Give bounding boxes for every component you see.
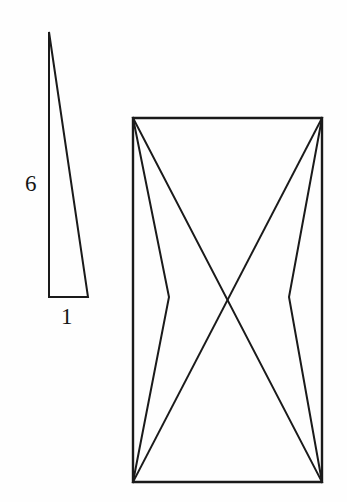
diagram-background: [0, 0, 347, 502]
triangle-height-label: 6: [25, 172, 37, 195]
geometry-diagram-canvas: [0, 0, 347, 502]
geometry-figure-container: 6 1: [0, 0, 347, 502]
triangle-base-label: 1: [61, 305, 73, 328]
